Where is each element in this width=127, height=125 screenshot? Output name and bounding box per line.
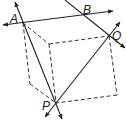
label-A: A: [9, 12, 18, 26]
cube-diagram: A B Q P: [0, 0, 127, 125]
edge-A-inner: [23, 23, 49, 44]
edge-Q-rightbottom: [109, 36, 117, 95]
edge-inner-Q: [49, 36, 109, 44]
label-P: P: [42, 99, 50, 113]
edge-A-leftbottom: [23, 23, 30, 84]
label-Q: Q: [112, 29, 121, 43]
line-A-P: [15, 2, 62, 119]
line-P-Q: [45, 22, 120, 117]
label-B: B: [83, 3, 91, 17]
dashed-cube-edges: [23, 23, 117, 103]
edge-rightbottom-P: [56, 95, 117, 103]
